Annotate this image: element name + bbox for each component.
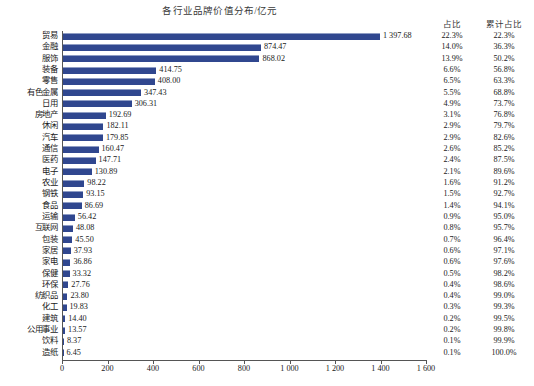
bar-value-label: 160.47: [99, 144, 125, 154]
bar-value-label: 8.37: [64, 336, 81, 346]
column-headers: 占比 累计占比: [432, 17, 534, 29]
category-label: 金融: [0, 42, 58, 52]
category-label: 贸易: [0, 31, 58, 41]
pct-value: 22.3%: [432, 31, 472, 41]
bar-value-label: 48.08: [73, 223, 94, 233]
pct-value: 0.1%: [432, 336, 472, 346]
cumulative-pct-value: 96.4%: [476, 235, 532, 245]
pct-value: 0.7%: [432, 235, 472, 245]
category-label: 运输: [0, 212, 58, 222]
bar[interactable]: [62, 100, 132, 107]
bar-value-label: 98.22: [84, 178, 105, 188]
chart-row: 钢铁93.151.5%92.7%: [0, 189, 534, 199]
cumulative-pct-value: 95.0%: [476, 212, 532, 222]
category-label: 饮料: [0, 336, 58, 346]
cumulative-pct-value: 85.2%: [476, 144, 532, 154]
cumulative-pct-value: 82.6%: [476, 133, 532, 143]
pct-value: 0.3%: [432, 302, 472, 312]
bar[interactable]: [62, 78, 155, 85]
x-axis-tick-label: 400: [147, 364, 159, 373]
chart-row: 包装45.500.7%96.4%: [0, 235, 534, 245]
bar[interactable]: [62, 123, 103, 130]
category-label: 家居: [0, 246, 58, 256]
bar[interactable]: [62, 214, 75, 221]
bar[interactable]: [62, 33, 380, 40]
cumulative-pct-value: 92.7%: [476, 189, 532, 199]
category-label: 家电: [0, 257, 58, 267]
chart-row: 饮料8.370.1%99.9%: [0, 336, 534, 346]
x-axis-tick: [108, 360, 109, 364]
bar[interactable]: [62, 270, 70, 277]
chart-row: 农业98.221.6%91.2%: [0, 178, 534, 188]
cumulative-pct-value: 99.0%: [476, 291, 532, 301]
bar[interactable]: [62, 112, 106, 119]
bar-value-label: 408.00: [155, 76, 181, 86]
bar-value-label: 6.45: [64, 348, 81, 358]
pct-value: 2.6%: [432, 144, 472, 154]
bar-value-label: 182.11: [103, 121, 128, 131]
chart-row: 食品86.691.4%94.1%: [0, 201, 534, 211]
category-label: 建筑: [0, 314, 58, 324]
chart-row: 医药147.712.4%87.5%: [0, 155, 534, 165]
bar-value-label: 192.69: [106, 110, 132, 120]
chart-row: 公用事业13.570.2%99.8%: [0, 325, 534, 335]
x-axis-tick: [199, 360, 200, 364]
pct-value: 14.0%: [432, 42, 472, 52]
bar-value-label: 868.02: [259, 54, 285, 64]
cumulative-pct-value: 36.3%: [476, 42, 532, 52]
x-axis-tick: [426, 360, 427, 364]
x-axis-tick-label: 600: [192, 364, 204, 373]
bar[interactable]: [62, 180, 84, 187]
bar[interactable]: [62, 44, 261, 51]
bar[interactable]: [62, 134, 103, 141]
cumulative-pct-value: 99.3%: [476, 302, 532, 312]
category-label: 包装: [0, 235, 58, 245]
chart-row: 建筑14.400.2%99.5%: [0, 314, 534, 324]
bar[interactable]: [62, 168, 92, 175]
bar[interactable]: [62, 259, 70, 266]
x-axis-tick: [335, 360, 336, 364]
bar[interactable]: [62, 247, 71, 254]
bar[interactable]: [62, 157, 96, 164]
x-axis-tick-label: 1 600: [417, 364, 435, 373]
bar[interactable]: [62, 89, 141, 96]
pct-value: 1.5%: [432, 189, 472, 199]
cumulative-pct-value: 95.7%: [476, 223, 532, 233]
bar[interactable]: [62, 146, 99, 153]
chart-rows: 贸易1 397.6822.3%22.3%金融874.4714.0%36.3%服饰…: [0, 31, 534, 359]
bar[interactable]: [62, 67, 156, 74]
bar-value-label: 19.83: [67, 302, 88, 312]
chart-row: 家居37.930.6%97.1%: [0, 246, 534, 256]
bar[interactable]: [62, 236, 72, 243]
pct-value: 2.9%: [432, 121, 472, 131]
bar-value-label: 93.15: [83, 189, 104, 199]
cumulative-pct-value: 79.7%: [476, 121, 532, 131]
category-label: 互联网: [0, 223, 58, 233]
bar[interactable]: [62, 55, 259, 62]
bar-value-label: 56.42: [75, 212, 96, 222]
category-label: 休闲: [0, 121, 58, 131]
pct-value: 13.9%: [432, 54, 472, 64]
cumulative-pct-value: 98.6%: [476, 280, 532, 290]
category-label: 电子: [0, 167, 58, 177]
pct-value: 0.2%: [432, 325, 472, 335]
bar[interactable]: [62, 202, 82, 209]
bar[interactable]: [62, 191, 83, 198]
category-label: 纺织品: [0, 291, 58, 301]
bar-value-label: 347.43: [141, 88, 167, 98]
pct-value: 0.4%: [432, 291, 472, 301]
category-label: 日用: [0, 99, 58, 109]
cumulative-pct-column-header: 累计占比: [476, 17, 532, 29]
category-label: 有色金属: [0, 88, 58, 98]
cumulative-pct-value: 22.3%: [476, 31, 532, 41]
category-label: 房地产: [0, 110, 58, 120]
bar[interactable]: [62, 225, 73, 232]
chart-row: 电子130.892.1%89.6%: [0, 167, 534, 177]
chart-row: 互联网48.080.8%95.7%: [0, 223, 534, 233]
category-label: 服饰: [0, 54, 58, 64]
chart-row: 零售408.006.5%63.3%: [0, 76, 534, 86]
chart-row: 休闲182.112.9%79.7%: [0, 121, 534, 131]
pct-value: 0.9%: [432, 212, 472, 222]
x-axis-tick-label: 0: [60, 364, 64, 373]
chart-row: 日用306.314.9%73.7%: [0, 99, 534, 109]
